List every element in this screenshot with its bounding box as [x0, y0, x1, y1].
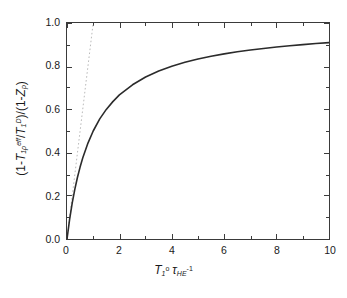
x-tick-label: 4: [155, 245, 189, 256]
x-axis-title-tau-sub: HE: [177, 270, 187, 277]
x-tick-label: 8: [260, 245, 294, 256]
y-axis-title-T1rho-sub: 1ρ: [20, 146, 27, 154]
y-axis-title-T1rho-sup: eff: [15, 138, 22, 146]
x-axis-title-T-sup: o: [165, 265, 169, 272]
y-axis-title-open: (1-: [14, 161, 28, 176]
y-axis-title-mid: )/(1-: [14, 96, 28, 118]
y-tick-label: 0.4: [26, 147, 60, 158]
y-tick-label: 0.2: [26, 191, 60, 202]
x-tick-label: 10: [313, 245, 347, 256]
y-axis-title-Z-sub: p: [20, 85, 27, 89]
y-axis-title-T1D-sub: 1: [20, 123, 27, 127]
y-tick-label: 1.0: [26, 17, 60, 28]
x-axis-title-T: T: [154, 263, 161, 277]
y-axis-title-T1D-sup: D: [15, 118, 22, 123]
x-tick-label: 2: [102, 245, 136, 256]
y-axis-title-Z: Z: [14, 89, 28, 96]
major-tick-marks: [67, 23, 329, 239]
y-axis-title: (1-T1ρeff/T1D)/(1-Zp): [15, 15, 28, 241]
plot-area: [66, 22, 330, 240]
y-axis-title-T1D: T: [14, 127, 28, 134]
x-tick-label: 6: [207, 245, 241, 256]
x-axis-title: T1oτHE-1: [0, 264, 347, 277]
y-axis-title-slash: /: [14, 135, 28, 138]
x-axis-title-tau-sup: -1: [187, 265, 193, 272]
minor-tick-marks: [67, 23, 329, 239]
figure-container: 1.0 0.8 0.6 0.4 0.2 0.0 0 2 4 6 8 10 T1o…: [0, 0, 347, 298]
y-axis-title-close: ): [14, 81, 28, 85]
y-axis-title-T1rho: T: [14, 154, 28, 161]
y-tick-label: 0.0: [26, 234, 60, 245]
x-tick-label: 0: [49, 245, 83, 256]
plot-svg: [67, 23, 329, 239]
y-tick-label: 0.8: [26, 60, 60, 71]
saturation-curve-line: [67, 43, 329, 239]
y-tick-label: 0.6: [26, 104, 60, 115]
